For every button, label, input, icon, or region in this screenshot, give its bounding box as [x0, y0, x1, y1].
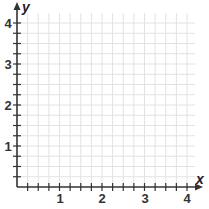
y-axis-arrow-icon [14, 2, 21, 10]
axes [14, 2, 204, 191]
tick-labels: 1 2 3 4 1 2 3 4 x y [4, 0, 205, 206]
x-tick-label-4: 4 [183, 191, 191, 206]
x-tick-label-3: 3 [141, 191, 148, 206]
y-tick-label-3: 3 [4, 57, 11, 72]
tick-marks [13, 23, 187, 191]
y-tick-label-1: 1 [4, 139, 11, 154]
grid-lines [17, 13, 195, 187]
x-axis-label: x [195, 171, 205, 187]
x-tick-label-1: 1 [56, 191, 63, 206]
coordinate-grid: 1 2 3 4 1 2 3 4 x y [0, 0, 209, 209]
x-tick-label-2: 2 [98, 191, 105, 206]
y-tick-label-4: 4 [4, 16, 12, 31]
y-axis-label: y [21, 0, 31, 15]
y-tick-label-2: 2 [4, 98, 11, 113]
